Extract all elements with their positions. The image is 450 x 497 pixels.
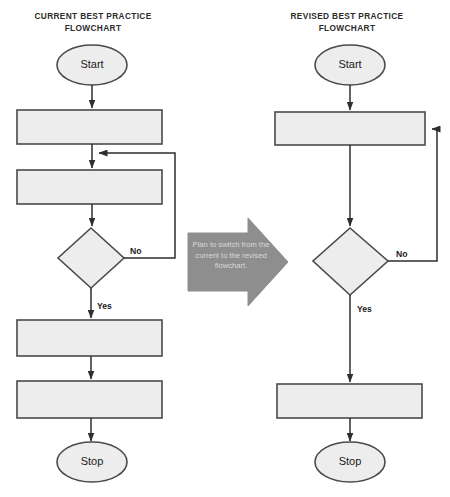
right-branch-label-yes: Yes bbox=[357, 304, 372, 314]
left-chart-group: Start No Yes bbox=[17, 45, 175, 482]
left-node-stop-label: Stop bbox=[81, 455, 104, 467]
left-node-process3[interactable] bbox=[17, 320, 162, 356]
right-branch-label-no: No bbox=[396, 249, 407, 259]
right-node-decision[interactable] bbox=[313, 228, 388, 295]
right-node-start-label: Start bbox=[338, 58, 361, 70]
left-node-decision[interactable] bbox=[58, 228, 124, 288]
left-node-process1[interactable] bbox=[17, 110, 162, 144]
right-node-process2[interactable] bbox=[277, 384, 422, 418]
flowchart-canvas: CURRENT BEST PRACTICE FLOWCHART REVISED … bbox=[0, 0, 450, 497]
callout-arrow-label: Plan to switch from the current to the r… bbox=[192, 240, 270, 272]
right-node-stop-label: Stop bbox=[339, 455, 362, 467]
left-branch-label-no: No bbox=[130, 246, 141, 256]
right-node-process1[interactable] bbox=[275, 112, 425, 145]
left-branch-label-yes: Yes bbox=[97, 301, 112, 311]
right-edge-decision-no-loop bbox=[388, 129, 437, 261]
left-node-process2[interactable] bbox=[17, 170, 162, 204]
right-chart-group: Start No Yes Stop bbox=[275, 45, 437, 482]
left-node-process4[interactable] bbox=[17, 381, 162, 418]
left-edge-decision-no-loop bbox=[99, 153, 175, 258]
left-node-start-label: Start bbox=[80, 58, 103, 70]
